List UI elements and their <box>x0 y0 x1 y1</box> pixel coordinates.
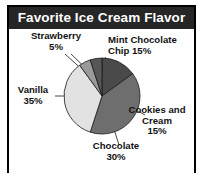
pie-label-vanilla: Vanilla 35% <box>11 85 55 106</box>
pie-label-vanilla-line2: 35% <box>11 96 55 107</box>
pie-chart-card: Favorite Ice Cream Flavor <box>7 5 196 173</box>
pie-label-chocolate: Chocolate 30% <box>79 141 153 162</box>
page-title: Favorite Ice Cream Flavor <box>18 11 186 25</box>
chart-title-bar: Favorite Ice Cream Flavor <box>9 7 194 29</box>
pie-label-mint-line2: Chip 15% <box>108 46 192 57</box>
pie-label-chocolate-line2: 30% <box>79 152 153 163</box>
chart-plot-area: Strawberry 5% Mint Chocolate Chip 15% Va… <box>9 29 194 173</box>
pie-label-cookies-and-cream: Cookies and Cream 15% <box>121 105 193 137</box>
pie-label-strawberry: Strawberry 5% <box>25 31 87 52</box>
pie-label-cookies-line3: 15% <box>121 126 193 137</box>
pie-label-mint-chocolate-chip: Mint Chocolate Chip 15% <box>108 35 192 56</box>
pie-label-strawberry-line2: 5% <box>25 42 87 53</box>
